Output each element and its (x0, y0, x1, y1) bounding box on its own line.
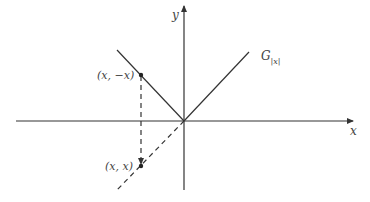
abs-value-diagram: y x G|x| (x, −x) (x, x) (0, 0, 370, 202)
graph-label-subscript: |x| (271, 57, 281, 66)
y-axis-label: y (171, 8, 179, 22)
x-axis-label: x (350, 124, 357, 138)
point-label-x-negx: (x, −x) (97, 69, 134, 82)
graph-label-main: G (261, 49, 271, 63)
point-x-negx (139, 73, 143, 77)
point-x-x (139, 164, 143, 168)
graph-label: G|x| (261, 49, 281, 66)
graph-left-branch (117, 50, 184, 121)
graph-right-branch (184, 52, 249, 121)
point-label-x-x: (x, x) (105, 160, 133, 173)
dashed-diagonal (116, 121, 184, 191)
